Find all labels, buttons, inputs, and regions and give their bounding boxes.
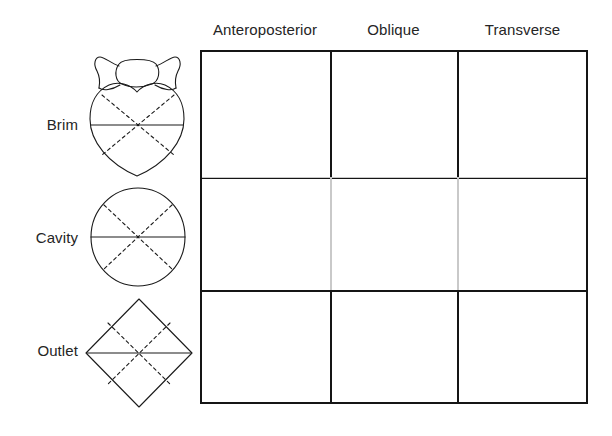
column-header-oblique: Oblique (330, 21, 457, 39)
column-header-anteroposterior: Anteroposterior (200, 21, 330, 39)
cell-brim-anteroposterior-value (202, 52, 330, 177)
cell-brim-transverse-value (459, 52, 586, 177)
pelvic-outlet-diagram (82, 296, 196, 410)
cell-cavity-anteroposterior[interactable] (200, 177, 332, 292)
cell-cavity-transverse-value (458, 178, 587, 291)
sacral-promontory-outline (116, 60, 159, 88)
cell-outlet-transverse[interactable] (457, 290, 588, 404)
cell-brim-anteroposterior[interactable] (200, 50, 332, 179)
row-label-outlet: Outlet (20, 342, 78, 360)
pelvic-cavity-diagram (82, 186, 194, 289)
cell-outlet-anteroposterior-value (202, 292, 330, 402)
cell-outlet-oblique-value (332, 292, 457, 402)
row-label-brim: Brim (20, 116, 78, 134)
pelvic-diameters-figure: Anteroposterior Oblique Transverse Brim … (0, 0, 612, 436)
cell-cavity-transverse[interactable] (457, 177, 588, 292)
cell-brim-oblique-value (332, 52, 457, 177)
cell-cavity-oblique[interactable] (330, 177, 459, 292)
cell-cavity-oblique-value (331, 178, 458, 291)
cell-brim-transverse[interactable] (457, 50, 588, 179)
pelvic-brim-diagram (78, 50, 196, 178)
cell-outlet-oblique[interactable] (330, 290, 459, 404)
pelvic-diameters-matrix (200, 50, 588, 404)
cell-outlet-anteroposterior[interactable] (200, 290, 332, 404)
cell-cavity-anteroposterior-value (201, 178, 331, 291)
row-label-cavity: Cavity (20, 229, 78, 247)
column-header-transverse: Transverse (457, 21, 588, 39)
cell-outlet-transverse-value (459, 292, 586, 402)
cell-brim-oblique[interactable] (330, 50, 459, 179)
